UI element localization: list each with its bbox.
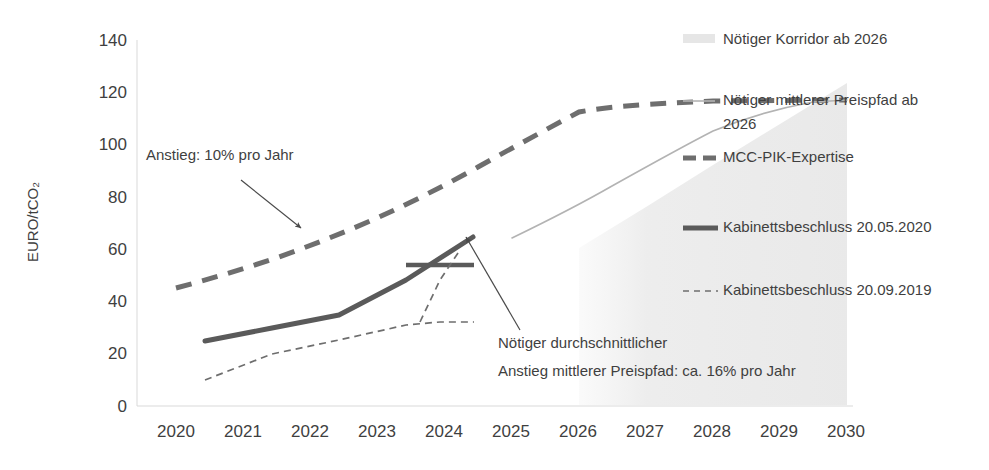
y-tick-60: 60: [108, 240, 127, 259]
x-tick-2030: 2030: [827, 422, 865, 441]
y-tick-140: 140: [99, 31, 127, 50]
legend-label-noetiger-mittlerer-preispfad: Nötiger mittlerer Preispfad ab: [723, 91, 918, 108]
legend-label-kabinettsbeschluss-2020: Kabinettsbeschluss 20.05.2020: [723, 218, 931, 235]
legend-label-kabinettsbeschluss-2019: Kabinettsbeschluss 20.09.2019: [723, 281, 931, 298]
x-tick-2022: 2022: [291, 422, 329, 441]
x-tick-2027: 2027: [626, 422, 664, 441]
annotation-mittlerer-preispfad-line2: Anstieg mittlerer Preispfad: ca. 16% pro…: [498, 362, 796, 379]
y-tick-80: 80: [108, 188, 127, 207]
x-tick-2024: 2024: [425, 422, 463, 441]
annotation-anstieg-10-label: Anstieg: 10% pro Jahr: [146, 146, 294, 163]
legend-label-noetiger-mittlerer-preispfad-line2: 2026: [723, 115, 756, 132]
x-tick-2028: 2028: [693, 422, 731, 441]
legend-label-noetiger-korridor: Nötiger Korridor ab 2026: [723, 30, 887, 47]
x-tick-2023: 2023: [358, 422, 396, 441]
y-axis-title-group: EURO/tCO₂: [24, 182, 41, 262]
y-tick-120: 120: [99, 83, 127, 102]
co2-price-path-chart: 140 120 100 80 60 40 20 0 EURO/tCO₂ 2020…: [0, 0, 989, 470]
legend-label-mcc-pik-expertise: MCC-PIK-Expertise: [723, 148, 854, 165]
y-tick-20: 20: [108, 344, 127, 363]
x-tick-2026: 2026: [559, 422, 597, 441]
annotation-mittlerer-preispfad-line1: Nötiger durchschnittlicher: [498, 334, 667, 351]
x-tick-2020: 2020: [157, 422, 195, 441]
y-tick-40: 40: [108, 292, 127, 311]
y-axis-title: EURO/tCO₂: [24, 182, 41, 262]
chart-figure: 140 120 100 80 60 40 20 0 EURO/tCO₂ 2020…: [0, 0, 989, 470]
band-swatch-icon: [683, 34, 715, 43]
x-tick-2021: 2021: [224, 422, 262, 441]
x-tick-2025: 2025: [492, 422, 530, 441]
y-tick-0: 0: [118, 397, 127, 416]
y-tick-100: 100: [99, 135, 127, 154]
x-tick-2029: 2029: [760, 422, 798, 441]
